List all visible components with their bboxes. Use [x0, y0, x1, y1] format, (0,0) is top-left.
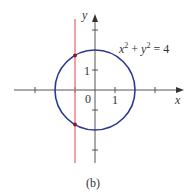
intersection-point-bottom: [73, 123, 77, 127]
diagram-canvas: y x 0 1 1 x2+y2= 4 (b): [0, 0, 191, 195]
intersection-point-top: [73, 54, 77, 58]
y-axis-arrow-icon: [92, 14, 98, 22]
x-axis-label: x: [174, 93, 181, 107]
x-tick-label-1: 1: [112, 93, 118, 107]
y-tick-label-1: 1: [84, 64, 90, 78]
y-axis-label: y: [81, 8, 88, 22]
circle-equation-label: x2+y2= 4: [118, 41, 169, 56]
figure-caption: (b): [86, 176, 100, 190]
origin-label: 0: [85, 92, 91, 106]
